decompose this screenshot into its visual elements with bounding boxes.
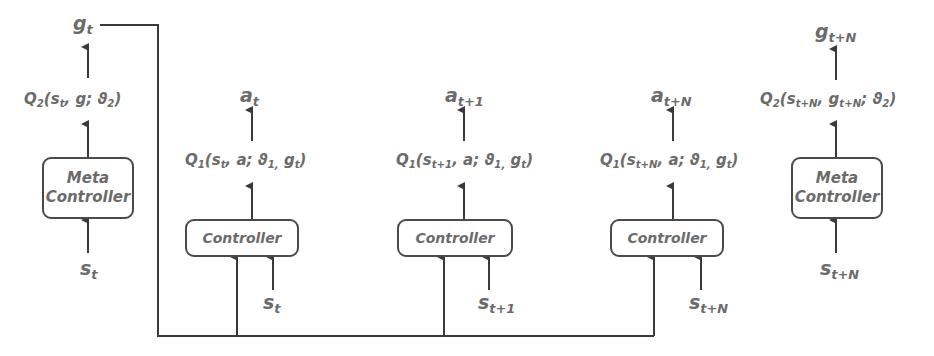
output-subscript: t+N — [829, 30, 857, 45]
input-subscript: t+1 — [489, 301, 515, 316]
box-label: Controller — [202, 229, 281, 247]
left-meta-input-s: st — [80, 259, 97, 282]
left-meta-q-function: Q2(st, g; ϑ2) — [24, 92, 121, 109]
box-label: Controller — [415, 229, 494, 247]
output-base: a — [445, 84, 458, 106]
input-base: s — [80, 257, 91, 279]
output-subscript: t+1 — [458, 94, 484, 109]
box-label-line1: Meta — [816, 169, 858, 189]
input-base: s — [689, 291, 700, 313]
output-base: g — [815, 20, 829, 42]
right-meta-controller-box: Meta Controller — [791, 157, 883, 219]
box-label: Controller — [627, 229, 706, 247]
controller-2-output-a: at+1 — [445, 86, 484, 109]
input-subscript: t — [274, 301, 280, 316]
controller-2-state-input: st+1 — [478, 293, 515, 316]
controller-1-box: Controller — [185, 219, 299, 257]
left-meta-controller-box: Meta Controller — [42, 157, 134, 219]
input-subscript: t+N — [831, 267, 859, 282]
controller-1-state-input: st — [263, 293, 280, 316]
input-subscript: t — [91, 267, 97, 282]
right-meta-input-s: st+N — [820, 259, 859, 282]
left-meta-output-g: gt — [73, 14, 93, 37]
controller-1-q-function: Q1(st, a; ϑ1, gt) — [185, 153, 306, 170]
controller-3-box: Controller — [610, 219, 724, 257]
controller-3-q-function: Q1(st+N, a; ϑ1, gt) — [600, 153, 738, 170]
box-label-line2: Controller — [46, 188, 131, 208]
goal-bus-line — [100, 25, 654, 336]
output-base: a — [651, 84, 664, 106]
output-subscript: t — [87, 22, 93, 37]
controller-3-output-a: at+N — [651, 86, 692, 109]
right-meta-q-function: Q2(st+N, gt+N; ϑ2) — [760, 92, 896, 109]
input-base: s — [478, 291, 489, 313]
right-meta-output-g: gt+N — [815, 22, 856, 45]
input-subscript: t+N — [700, 301, 728, 316]
output-base: g — [73, 12, 87, 34]
input-base: s — [820, 257, 831, 279]
controller-3-state-input: st+N — [689, 293, 728, 316]
output-subscript: t — [253, 94, 259, 109]
controller-1-output-a: at — [240, 86, 259, 109]
box-label-line2: Controller — [795, 188, 880, 208]
output-base: a — [240, 84, 253, 106]
input-base: s — [263, 291, 274, 313]
box-label-line1: Meta — [67, 169, 109, 189]
controller-2-box: Controller — [397, 219, 513, 257]
controller-2-q-function: Q1(st+1, a; ϑ1, gt) — [396, 153, 533, 170]
output-subscript: t+N — [664, 94, 692, 109]
